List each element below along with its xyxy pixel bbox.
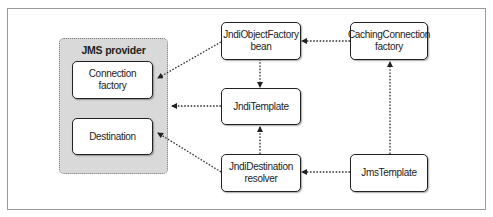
node-label: factory <box>99 80 127 91</box>
node-jms-template: JmsTemplate <box>350 154 428 192</box>
node-label: resolver <box>244 173 277 184</box>
node-connection-factory: Connectionfactory <box>72 61 153 99</box>
edge-destresolver-to-destination <box>158 133 221 172</box>
node-label: CachingConnection <box>348 29 430 40</box>
node-label: factory <box>375 41 403 52</box>
node-label: Connection <box>89 68 137 79</box>
node-label: Destination <box>89 131 136 143</box>
node-label: JndiDestination <box>229 161 293 172</box>
node-jndi-destination-resolver: JndiDestinationresolver <box>221 154 301 192</box>
node-label: JndiObjectFactory <box>223 29 299 40</box>
node-label: JmsTemplate <box>361 167 417 179</box>
node-caching-connection-factory: CachingConnectionfactory <box>350 22 428 60</box>
node-jndi-object-factory: JndiObjectFactorybean <box>221 22 301 60</box>
node-label: bean <box>250 41 271 52</box>
node-label: JndiTemplate <box>233 101 288 113</box>
node-destination: Destination <box>72 118 153 155</box>
node-jndi-template: JndiTemplate <box>221 88 301 125</box>
edge-objfactory-to-connfactory <box>158 42 221 78</box>
